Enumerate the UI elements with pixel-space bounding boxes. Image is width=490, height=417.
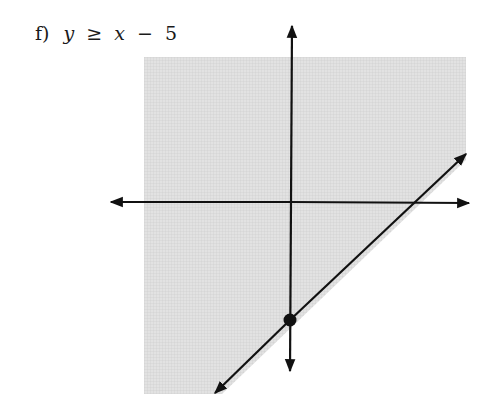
y-axis bbox=[291, 26, 292, 202]
y-axis-bottom bbox=[290, 202, 291, 371]
shaded-region bbox=[144, 57, 466, 394]
x-axis-right bbox=[290, 202, 469, 203]
inequality-graph bbox=[0, 0, 490, 417]
y-intercept-point bbox=[284, 314, 297, 327]
